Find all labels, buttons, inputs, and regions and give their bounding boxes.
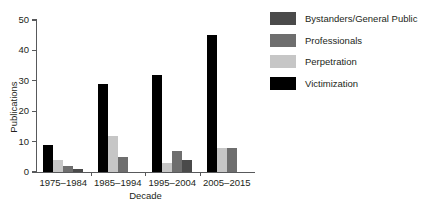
x-tick-label: 2005–2015 — [200, 176, 255, 189]
bar — [227, 148, 237, 172]
y-tick-label: 0 — [24, 165, 29, 178]
legend-item: Bystanders/General Public — [270, 11, 430, 26]
legend-item: Victimization — [270, 76, 430, 91]
bar — [73, 169, 83, 172]
bar — [53, 160, 63, 172]
y-tick-label: 10 — [18, 135, 29, 148]
legend-item: Professionals — [270, 33, 430, 48]
y-axis-title-text: Publications — [8, 52, 19, 162]
legend-swatch — [270, 77, 296, 90]
bar — [118, 157, 128, 172]
bar — [172, 151, 182, 172]
bar-group — [207, 20, 247, 172]
bar-group — [98, 20, 138, 172]
y-tick-mark — [32, 171, 36, 172]
legend-swatch — [270, 34, 296, 47]
bar — [98, 84, 108, 172]
bar — [152, 75, 162, 172]
y-tick-mark — [32, 19, 36, 20]
legend-swatch — [270, 55, 296, 68]
legend-swatch — [270, 12, 296, 25]
y-tick-label: 40 — [18, 43, 29, 56]
legend-label: Victimization — [305, 77, 358, 90]
y-tick-mark — [32, 50, 36, 51]
y-tick-mark — [32, 80, 36, 81]
y-tick-label: 50 — [18, 13, 29, 26]
y-tick-label: 30 — [18, 74, 29, 87]
bar — [162, 163, 172, 172]
x-tick-mark — [200, 172, 201, 176]
x-tick-label: 1985–1994 — [91, 176, 146, 189]
legend-label: Perpetration — [305, 55, 357, 68]
bar-group — [43, 20, 83, 172]
x-tick-mark — [145, 172, 146, 176]
y-tick-mark — [32, 141, 36, 142]
bar — [43, 145, 53, 172]
bar — [63, 166, 73, 172]
chart-legend: Bystanders/General PublicProfessionalsPe… — [270, 11, 430, 97]
x-tick-label: 1975–1984 — [36, 176, 91, 189]
x-tick-mark — [91, 172, 92, 176]
x-tick-label: 1995–2004 — [145, 176, 200, 189]
y-tick-mark — [32, 111, 36, 112]
bar — [207, 35, 217, 172]
y-tick-label: 20 — [18, 104, 29, 117]
legend-item: Perpetration — [270, 54, 430, 69]
bar — [182, 160, 192, 172]
x-axis-title: Decade — [36, 190, 255, 201]
legend-label: Professionals — [305, 34, 362, 47]
bar — [217, 148, 227, 172]
bar-group — [152, 20, 192, 172]
bar-chart: Publications Decade 01020304050 1975–198… — [0, 0, 432, 209]
y-axis-title: Publications — [0, 0, 10, 52]
bar — [108, 136, 118, 172]
plot-area — [36, 20, 254, 172]
legend-label: Bystanders/General Public — [305, 12, 417, 25]
